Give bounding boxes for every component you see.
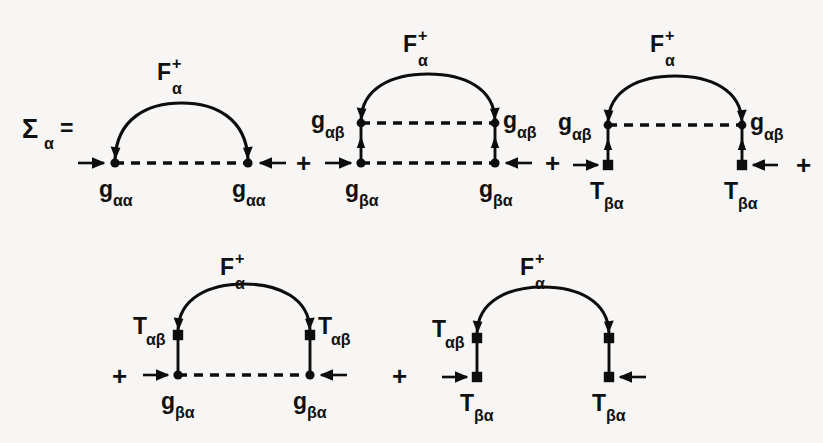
sigma-subscript: α [44,135,54,152]
term-2-upper-left-label: g αβ [311,107,345,141]
term-3-lower-right-vertex-square [737,160,747,170]
term-4-upper-left-label: T αβ [133,313,166,348]
term-2-group: F + α g [311,27,537,209]
term-3-propagator-arc [608,76,742,122]
term-4-lower-left-label: g βα [161,388,195,421]
term-2-lower-right-g-subscript: βα [493,192,513,209]
figure-canvas: Σ α = F + α g [0,0,823,443]
term-4-upper-right-T-symbol: T [318,313,332,339]
term-3-upper-right-g-symbol: g [750,109,764,135]
term-3-F-subscript: α [665,52,675,69]
term-4-group: F + α T αβ T [133,250,351,421]
term-2-lower-left-vertex-dot [356,158,365,167]
plus-operator-4: + [112,361,127,391]
term-3-lower-right-label: T βα [724,178,758,212]
term-3-right-vertical-arrowhead [738,138,746,150]
term-4-lower-right-label: g βα [293,388,327,421]
term-5-propagator-arc [477,287,609,333]
propagator-alpha-subscript: α [172,80,182,97]
term-1-propagator-arc [115,103,248,159]
term-2-F-subscript: α [418,52,428,69]
term-3-F-superscript: + [665,27,674,44]
term-3-lower-left-vertex-square [603,160,613,170]
term-2-F-symbol: F [403,31,417,57]
term-2-lower-right-label: g βα [479,176,513,209]
term-2-arc-right-arrowhead [490,108,500,121]
term-1-left-vertex-label: g αα [99,176,133,209]
term-2-arc-left-arrowhead [357,108,367,121]
term-1-right-g-symbol: g [232,176,246,202]
term-1-arc-label: F + α [157,55,182,97]
term-4-upper-right-T-subscript: αβ [331,331,351,348]
term-1-arc-left-arrowhead [111,147,121,160]
term-5-upper-left-T-subscript: αβ [445,334,465,351]
term-4-arc-left-arrowhead [174,318,184,331]
term-3-upper-left-label: g αβ [558,109,592,143]
term-5-lower-right-vertex-square [604,372,614,382]
term-3-lower-right-T-subscript: βα [738,195,758,212]
term-5-F-symbol: F [520,254,534,280]
term-5-lower-left-label: T βα [460,390,494,424]
term-1-left-g-symbol: g [99,176,113,202]
sigma-symbol: Σ [22,114,38,144]
term-2-upper-left-vertex-dot [357,119,366,128]
term-3-lower-left-T-subscript: βα [604,195,624,212]
term-3-lower-left-label: T βα [590,178,624,212]
term-3-arc-label: F + α [650,27,675,69]
term-2-upper-left-g-symbol: g [311,107,325,133]
term-1-right-vertex-label: g αα [232,176,266,209]
term-3-upper-left-g-symbol: g [558,109,572,135]
plus-operator-3: + [796,150,811,180]
term-2-F-superscript: + [418,27,427,44]
term-2-upper-right-label: g αβ [503,107,537,141]
term-1-right-vertex-dot [243,158,252,167]
term-5-upper-left-vertex-square [472,333,482,343]
term-4-upper-left-T-subscript: αβ [146,331,166,348]
term-3-arc-right-arrowhead [737,110,747,123]
term-5-upper-right-vertex-square [604,333,614,343]
plus-operator-1: + [296,148,311,178]
term-2-upper-right-g-symbol: g [503,107,517,133]
term-5-lower-left-T-symbol: T [460,390,474,416]
term-2-lower-right-vertex-dot [490,158,499,167]
term-2-right-vertical-arrowhead [491,136,499,148]
term-2-lower-right-g-symbol: g [479,176,493,202]
term-2-upper-left-g-subscript: αβ [325,124,345,141]
term-5-F-superscript: + [535,250,544,267]
propagator-plus-superscript: + [172,55,181,72]
term-2-left-vertical-arrowhead [357,136,365,148]
term-3-upper-left-vertex-dot [604,121,613,130]
term-4-lower-right-g-subscript: βα [307,404,327,421]
term-4-arc-right-arrowhead [305,318,315,331]
term-2-upper-right-vertex-dot [491,119,500,128]
term-4-lower-right-vertex-dot [305,370,314,379]
term-3-arc-left-arrowhead [604,110,614,123]
term-5-arc-left-arrowhead [473,321,483,334]
term-4-upper-right-label: T αβ [318,313,351,348]
propagator-F-symbol: F [157,59,171,85]
term-4-lower-right-g-symbol: g [293,388,307,414]
term-1-left-g-subscript: αα [113,192,133,209]
term-2-lower-left-label: g βα [345,176,379,209]
term-4-F-symbol: F [220,254,234,280]
term-1-group: F + α g αα g αα [78,55,286,209]
term-4-lower-left-g-symbol: g [161,388,175,414]
term-3-upper-right-g-subscript: αβ [764,126,784,143]
term-5-lower-right-T-subscript: βα [606,407,626,424]
term-2-propagator-arc [361,74,495,120]
term-2-upper-right-g-subscript: αβ [517,124,537,141]
term-5-lower-right-label: T βα [592,390,626,424]
term-4-upper-left-vertex-square [173,330,183,340]
term-3-upper-left-g-subscript: αβ [572,126,592,143]
plus-operator-2: + [545,148,560,178]
term-2-lower-left-g-symbol: g [345,176,359,202]
term-4-lower-left-g-subscript: βα [175,404,195,421]
term-3-group: F + α g αβ [558,27,784,212]
term-3-upper-right-vertex-dot [738,121,747,130]
term-5-lower-left-vertex-square [472,372,482,382]
term-3-left-vertical-arrowhead [604,138,612,150]
equals-sign: = [60,115,73,141]
term-2-arc-label: F + α [403,27,428,69]
term-4-F-superscript: + [235,250,244,267]
term-4-upper-left-T-symbol: T [133,313,147,339]
